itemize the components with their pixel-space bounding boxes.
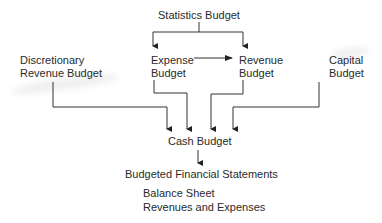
- node-budgeted-financial-statements: Budgeted Financial Statements: [125, 168, 278, 181]
- node-label-line: Capital: [329, 54, 364, 67]
- statement-revenues-expenses: Revenues and Expenses: [143, 201, 265, 214]
- node-label-line: Revenue: [239, 54, 283, 67]
- node-label-line: Expense: [151, 54, 194, 67]
- node-capital-budget: Capital Budget: [329, 54, 364, 80]
- budget-flow-diagram: Statistics Budget Discretionary Revenue …: [0, 0, 382, 223]
- node-label-line: Budget: [329, 67, 364, 80]
- node-expense-budget: Expense Budget: [151, 54, 194, 80]
- node-label-line: Discretionary: [20, 54, 102, 67]
- statement-balance-sheet: Balance Sheet: [143, 187, 215, 200]
- node-cash-budget: Cash Budget: [168, 135, 232, 148]
- node-label-line: Budget: [239, 67, 283, 80]
- node-label-line: Budget: [151, 67, 194, 80]
- node-label-line: Revenue Budget: [20, 67, 102, 80]
- node-discretionary-revenue-budget: Discretionary Revenue Budget: [20, 54, 102, 80]
- node-revenue-budget: Revenue Budget: [239, 54, 283, 80]
- node-statistics-budget: Statistics Budget: [158, 9, 240, 22]
